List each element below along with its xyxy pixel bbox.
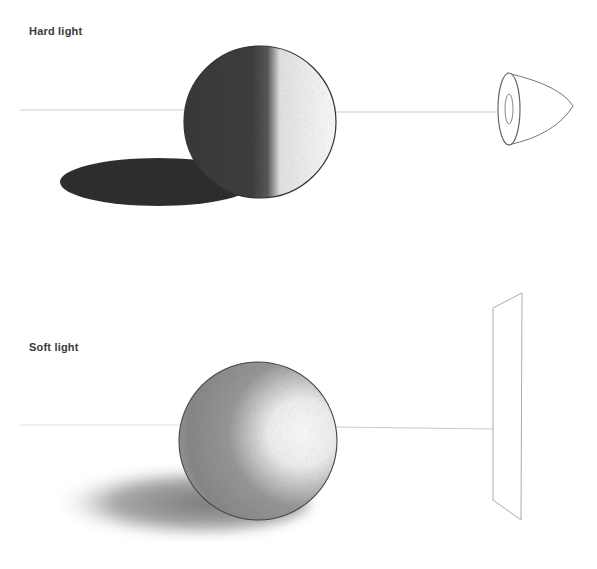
spotlight-cone-icon (498, 73, 573, 145)
hard-lit-sphere (184, 46, 336, 198)
light-ray-line (335, 427, 494, 429)
soft-lit-sphere (179, 362, 337, 520)
hard-light-scene (20, 46, 573, 206)
lighting-illustration (0, 0, 597, 569)
flat-panel-light-icon (493, 293, 522, 520)
soft-light-scene (20, 293, 522, 535)
